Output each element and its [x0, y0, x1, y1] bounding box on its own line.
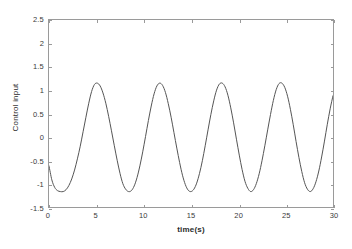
x-tick-mark: [240, 20, 241, 23]
x-tick-mark: [287, 20, 288, 23]
y-tick-label: 1: [40, 85, 44, 94]
x-tick-mark: [144, 205, 145, 208]
chart-figure: -1.5-1-0.500.511.522.5 051015202530 time…: [0, 0, 352, 249]
y-tick-label: -1: [37, 180, 44, 189]
y-tick-label: 0.5: [33, 109, 44, 118]
x-axis-label: time(s): [48, 225, 334, 234]
x-tick-mark: [287, 205, 288, 208]
y-tick-mark: [331, 44, 334, 45]
x-tick-mark: [97, 205, 98, 208]
y-tick-mark: [49, 138, 52, 139]
x-tick-mark: [334, 205, 335, 208]
x-axis-tick-labels: 051015202530: [48, 211, 334, 223]
y-axis-tick-labels: -1.5-1-0.500.511.522.5: [16, 19, 44, 208]
x-tick-mark: [144, 20, 145, 23]
x-tick-label: 0: [46, 211, 50, 220]
x-tick-mark: [97, 20, 98, 23]
y-tick-mark: [331, 209, 334, 210]
y-tick-mark: [49, 115, 52, 116]
plot-area: [48, 19, 334, 208]
y-tick-label: 2.5: [33, 15, 44, 24]
y-tick-mark: [49, 162, 52, 163]
x-tick-mark: [192, 205, 193, 208]
x-tick-label: 25: [282, 211, 291, 220]
x-tick-mark: [49, 205, 50, 208]
x-tick-mark: [49, 20, 50, 23]
y-tick-mark: [331, 162, 334, 163]
y-tick-mark: [49, 209, 52, 210]
y-tick-mark: [331, 138, 334, 139]
y-tick-mark: [49, 44, 52, 45]
y-tick-label: 2: [40, 38, 44, 47]
y-tick-mark: [49, 67, 52, 68]
y-tick-mark: [331, 91, 334, 92]
x-tick-mark: [192, 20, 193, 23]
y-tick-label: 1.5: [33, 62, 44, 71]
x-tick-label: 15: [187, 211, 196, 220]
y-tick-mark: [49, 91, 52, 92]
y-tick-mark: [331, 67, 334, 68]
y-tick-mark: [49, 185, 52, 186]
y-axis-label: Control input: [11, 60, 20, 156]
x-tick-label: 5: [93, 211, 97, 220]
control-input-curve: [49, 20, 333, 207]
x-tick-mark: [334, 20, 335, 23]
y-tick-label: 0: [40, 133, 44, 142]
y-tick-mark: [331, 185, 334, 186]
y-tick-label: -0.5: [30, 156, 44, 165]
x-tick-label: 10: [139, 211, 148, 220]
x-tick-label: 30: [330, 211, 339, 220]
x-tick-label: 20: [234, 211, 243, 220]
y-tick-mark: [331, 115, 334, 116]
y-tick-label: -1.5: [30, 204, 44, 213]
x-tick-mark: [240, 205, 241, 208]
curve-path: [49, 83, 333, 192]
